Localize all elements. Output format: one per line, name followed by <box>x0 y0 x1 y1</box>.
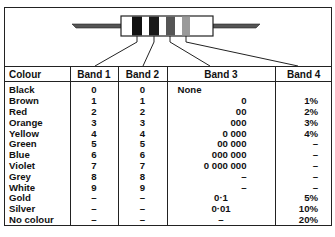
cell-band-1: 3 <box>70 118 118 129</box>
resistor-lead-right <box>213 24 260 28</box>
cell-band-4: 20% <box>275 215 332 226</box>
cell-colour: Red <box>4 107 70 118</box>
band-3-leader <box>170 36 210 66</box>
table-header-row: Colour Band 1 Band 2 Band 3 Band 4 <box>4 67 332 82</box>
cell-band-3: – <box>167 215 275 226</box>
cell-band-1: – <box>70 215 118 226</box>
table-row: Violet 7 7 0 000 000 – <box>4 161 332 172</box>
cell-band-2: 2 <box>118 107 167 118</box>
cell-band-3: None <box>167 82 275 96</box>
table-row: Grey 8 8 – – <box>4 172 332 183</box>
cell-band-4 <box>275 82 332 96</box>
cell-colour: No colour <box>4 215 70 226</box>
header-band-2: Band 2 <box>118 67 167 82</box>
header-colour: Colour <box>4 67 70 82</box>
cell-band-2: 3 <box>118 118 167 129</box>
header-band-1: Band 1 <box>70 67 118 82</box>
cell-band-3: 0 <box>167 96 275 107</box>
band-2-stripe <box>149 17 159 36</box>
resistor-lead-left <box>72 24 122 28</box>
cell-band-4: 3% <box>275 118 332 129</box>
cell-band-4: – <box>275 172 332 183</box>
table-row: Yellow 4 4 0 000 4% <box>4 128 332 139</box>
cell-band-2: – <box>118 215 167 226</box>
band-2-leader <box>143 36 154 66</box>
header-band-3: Band 3 <box>167 67 275 82</box>
table-row: No colour – – – 20% <box>4 215 332 226</box>
table-row: Brown 1 1 0 1% <box>4 96 332 107</box>
cell-colour: Black <box>4 82 70 96</box>
cell-band-4: 4% <box>275 128 332 139</box>
cell-band-4: – <box>275 139 332 150</box>
cell-band-1: 0 <box>70 82 118 96</box>
cell-colour: Orange <box>4 118 70 129</box>
cell-band-3: – <box>167 172 275 183</box>
cell-band-1: 2 <box>70 107 118 118</box>
table-row: Green 5 5 00 000 – <box>4 139 332 150</box>
table-row: Black 0 0 None <box>4 82 332 96</box>
band-1-leader <box>95 36 137 66</box>
cell-band-2: 0 <box>118 82 167 96</box>
table-row: Orange 3 3 000 3% <box>4 118 332 129</box>
cell-band-3: 00 <box>167 107 275 118</box>
cell-band-4: – <box>275 161 332 172</box>
header-band-4: Band 4 <box>275 67 332 82</box>
cell-band-3: 000 <box>167 118 275 129</box>
band-1-stripe <box>132 17 142 36</box>
resistor-diagram <box>0 0 335 68</box>
band-3-stripe <box>166 17 175 36</box>
cell-band-3: 0 000 000 <box>167 161 275 172</box>
table-row: Blue 6 6 000 000 – <box>4 150 332 161</box>
table-row: White 9 9 – – <box>4 183 332 194</box>
colour-code-table: Colour Band 1 Band 2 Band 3 Band 4 Black… <box>4 66 332 226</box>
table-row: Red 2 2 00 2% <box>4 107 332 118</box>
band-4-stripe <box>182 17 190 36</box>
cell-band-1: 8 <box>70 172 118 183</box>
cell-colour: Grey <box>4 172 70 183</box>
cell-band-4: 2% <box>275 107 332 118</box>
table-row: Gold – – 0·1 5% <box>4 193 332 204</box>
cell-band-4: – <box>275 150 332 161</box>
cell-band-2: 8 <box>118 172 167 183</box>
